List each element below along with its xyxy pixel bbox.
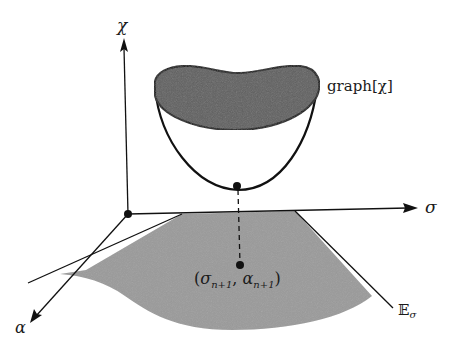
point-label-alpha-subscript: n+1 [253, 279, 274, 290]
sigma-axis-arrowhead-icon [403, 203, 418, 213]
surface-label: 𝔼σ [398, 303, 416, 318]
sigma-axis-label: σ [425, 199, 437, 216]
point-coordinate-label: (σn+1, αn+1) [194, 271, 281, 287]
graph-label: graph[χ] [327, 79, 393, 94]
origin-point [124, 210, 132, 218]
point-label-sigma-subscript: n+1 [211, 279, 232, 290]
point-label-close-paren: ) [275, 269, 281, 288]
point-label-alpha: α [243, 269, 254, 288]
diagram-figure: χ σ α graph[χ] (σn+1, αn+1) 𝔼σ [0, 0, 451, 348]
surface-label-symbol: 𝔼 [398, 301, 409, 319]
diagram-canvas [0, 0, 451, 348]
chi-axis-label: χ [117, 17, 127, 34]
graph-minimum-point [233, 182, 241, 190]
surface-label-subscript: σ [409, 309, 416, 320]
chi-axis-line [124, 48, 128, 214]
domain-point [236, 261, 244, 269]
point-label-separator: , [232, 269, 242, 288]
alpha-axis-label: α [15, 320, 26, 336]
point-label-sigma: σ [200, 269, 211, 288]
